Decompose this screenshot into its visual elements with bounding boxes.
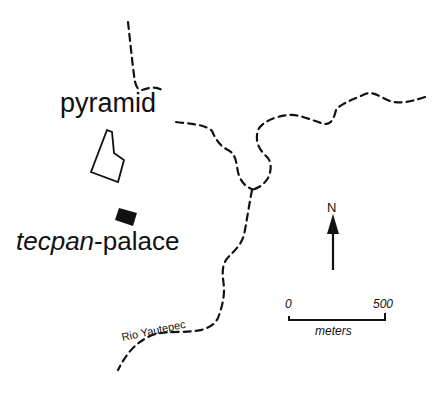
north-label: N — [327, 200, 336, 215]
scale-end-label: 500 — [373, 297, 393, 311]
palace-label-rest: -palace — [94, 226, 179, 256]
site-map: pyramid tecpan-palace N 0 500 meters Rio… — [0, 0, 441, 397]
pyramid-outline — [91, 130, 124, 182]
north-arrow-head — [327, 214, 339, 234]
palace-label: tecpan-palace — [16, 226, 179, 257]
map-graphics — [0, 0, 441, 397]
river-middle-branch — [176, 122, 252, 189]
river-north-branch — [128, 22, 162, 90]
river-main — [118, 190, 252, 370]
river-east-branch — [252, 93, 425, 190]
scale-bar — [289, 313, 385, 320]
palace-label-italic: tecpan — [16, 226, 94, 256]
scale-start-label: 0 — [285, 297, 292, 311]
pyramid-label: pyramid — [60, 88, 156, 119]
scale-units-label: meters — [315, 324, 352, 338]
palace-block — [115, 208, 137, 226]
